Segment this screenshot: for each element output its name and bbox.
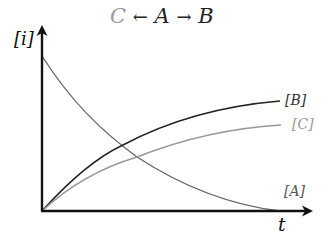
kinetics-diagram	[0, 0, 328, 239]
label-a: [A]	[284, 183, 305, 199]
left-arrow-icon: ←	[133, 6, 148, 27]
product-c: C	[110, 4, 126, 28]
x-axis-label: t	[278, 213, 286, 235]
curve-c	[42, 125, 281, 211]
label-b: [B]	[285, 92, 306, 108]
right-arrow-icon: →	[176, 6, 191, 27]
product-b: B	[198, 4, 213, 28]
label-c: [C]	[292, 116, 314, 132]
reaction-scheme: C ← A → B	[110, 4, 214, 28]
curve-b	[42, 101, 280, 211]
y-axis-label: [i]	[14, 28, 34, 49]
reactant-a: A	[155, 4, 170, 28]
curve-a	[42, 56, 280, 211]
